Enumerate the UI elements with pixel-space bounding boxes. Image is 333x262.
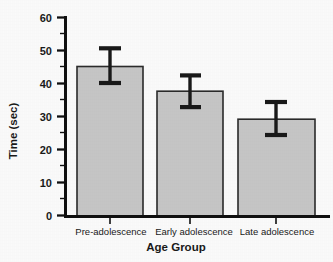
x-tick-label-late-adolescence: Late adolescence <box>240 226 314 237</box>
x-axis-title: Age Group <box>146 241 205 253</box>
y-tick-label-20: 20 <box>40 144 52 156</box>
y-tick-label-50: 50 <box>40 45 52 57</box>
x-tick-label-early-adolescence: Early adolescence <box>155 226 233 237</box>
bar-pre-adolescence[interactable] <box>77 67 143 217</box>
y-tick-label-30: 30 <box>40 111 52 123</box>
bar-early-adolescence[interactable] <box>157 91 223 216</box>
bar-rect[interactable] <box>157 91 223 216</box>
y-axis-title: Time (sec) <box>7 102 19 159</box>
bar-chart-figure: Time (sec) 60 50 40 30 20 10 0 <box>0 0 333 262</box>
x-tick-label-pre-adolescence: Pre-adolescence <box>75 226 146 237</box>
y-tick-label-40: 40 <box>40 78 52 90</box>
y-tick-label-60: 60 <box>40 12 52 24</box>
chart-canvas: Time (sec) 60 50 40 30 20 10 0 <box>0 0 333 262</box>
bar-rect[interactable] <box>77 67 143 217</box>
y-tick-label-10: 10 <box>40 177 52 189</box>
y-tick-label-0: 0 <box>46 210 52 222</box>
